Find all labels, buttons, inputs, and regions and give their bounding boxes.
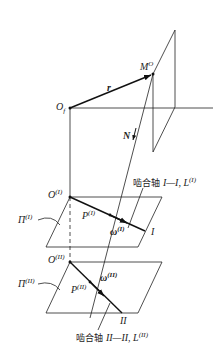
label-plane-I: Π(I) — [18, 214, 32, 225]
label-axis-II-end: II — [120, 316, 127, 326]
label-origin-I: O(I) — [48, 189, 62, 200]
vector-omega-I — [110, 215, 127, 223]
point-PII-dot — [89, 281, 92, 284]
label-omega-I: ω(I) — [110, 226, 125, 237]
point-PI-dot — [109, 214, 112, 217]
point-Of-dot — [69, 107, 72, 110]
vector-omega-II — [90, 282, 104, 296]
leader-axis-II — [98, 303, 110, 330]
label-point-M: MO — [140, 61, 153, 72]
label-point-P-I: P(I) — [82, 210, 95, 221]
caption-axis-II: 啮合轴 II—II, L(II) — [76, 332, 148, 343]
plane-I-outline — [46, 197, 162, 247]
label-origin-f: Of — [56, 102, 65, 115]
label-vector-N: N — [123, 131, 130, 141]
leader-plane-II — [38, 283, 60, 290]
point-OII-dot — [69, 261, 72, 264]
point-OI-dot — [69, 196, 72, 199]
label-point-P-II: P(II) — [71, 284, 86, 295]
label-plane-II: Π(II) — [18, 278, 35, 289]
point-M-dot — [152, 73, 155, 76]
meshing-axes-diagram: Of MO r N 啮合轴 I—I, L(I) O(I) Π(I) P(I) ω… — [0, 0, 218, 356]
label-omega-II: ω(II) — [100, 272, 117, 283]
label-axis-I-end: I — [151, 227, 154, 237]
label-vector-r: r — [107, 83, 111, 93]
caption-axis-I: 啮合轴 I—I, L(I) — [133, 177, 196, 188]
vertical-plane — [153, 30, 175, 152]
leader-axis-I — [128, 188, 143, 228]
vector-N-arrow — [133, 128, 136, 140]
label-origin-II: O(II) — [48, 254, 65, 265]
plane-II-outline — [46, 262, 162, 313]
